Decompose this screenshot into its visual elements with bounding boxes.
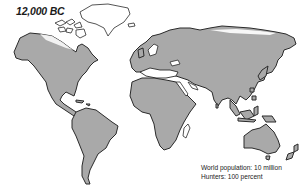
arctic-islands	[55, 19, 86, 38]
sri-lanka	[216, 104, 218, 108]
british-isles	[138, 48, 144, 58]
world-map	[0, 0, 306, 187]
madagascar	[183, 124, 190, 138]
tasmania	[266, 156, 270, 160]
australia	[244, 124, 280, 154]
map-caption: World population: 10 million Hunters: 10…	[201, 163, 282, 181]
greenland	[80, 4, 130, 36]
population-label: World population: 10 million	[201, 163, 282, 172]
iceland	[128, 23, 135, 27]
new-zealand	[294, 144, 298, 152]
africa	[130, 78, 196, 150]
new-zealand-south	[286, 152, 294, 160]
caribbean-islands	[76, 100, 90, 106]
south-america	[72, 108, 118, 184]
hunters-label: Hunters: 100 percent	[201, 172, 282, 181]
north-america	[14, 33, 98, 116]
